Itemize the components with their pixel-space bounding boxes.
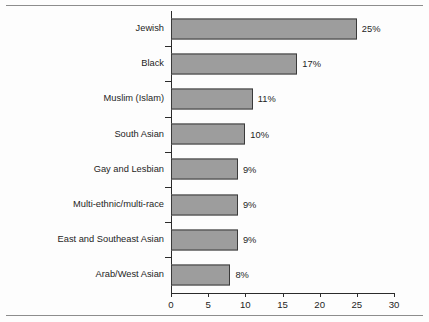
bar — [171, 53, 297, 74]
y-axis-tick-mark — [165, 222, 171, 223]
bar-row: Arab/West Asian8% — [0, 257, 429, 292]
x-axis-tick-mark — [208, 293, 209, 297]
bar-with-value: 9% — [171, 229, 256, 250]
bar-row: Jewish25% — [0, 11, 429, 46]
bar-value-label: 8% — [235, 270, 248, 280]
bar-value-label: 10% — [250, 129, 269, 139]
bar-with-value: 17% — [171, 53, 321, 74]
bar-value-label: 9% — [243, 164, 256, 174]
category-label: Muslim (Islam) — [0, 93, 164, 104]
bar-value-label: 9% — [243, 235, 256, 245]
bar — [171, 18, 357, 39]
bar — [171, 194, 238, 215]
bar-rows: Jewish25%Black17%Muslim (Islam)11%South … — [0, 11, 429, 293]
bar — [171, 88, 253, 109]
x-axis-tick-mark — [357, 293, 358, 297]
bar-value-label: 25% — [362, 24, 381, 34]
x-axis-tick-labels: 051015202530 — [0, 299, 429, 313]
bar-with-value: 9% — [171, 194, 256, 215]
x-axis-tick-label: 20 — [314, 299, 325, 310]
x-axis-tick-mark — [320, 293, 321, 297]
y-axis-tick-mark — [165, 117, 171, 118]
x-axis-tick-label: 25 — [351, 299, 362, 310]
bar-row: Gay and Lesbian9% — [0, 152, 429, 187]
bar — [171, 124, 245, 145]
bar-value-label: 11% — [258, 94, 276, 104]
bottom-divider-rule — [6, 315, 423, 316]
bar-with-value: 9% — [171, 159, 256, 180]
bar — [171, 264, 230, 285]
y-axis-tick-mark — [165, 81, 171, 82]
category-label: Black — [0, 58, 164, 69]
top-divider-rule — [6, 5, 423, 6]
x-axis-tick-label: 0 — [168, 299, 173, 310]
category-label: Multi-ethnic/multi-race — [0, 199, 164, 210]
bar-value-label: 9% — [243, 200, 256, 210]
bar-with-value: 10% — [171, 124, 269, 145]
x-axis-tick-label: 5 — [205, 299, 210, 310]
bar — [171, 159, 238, 180]
category-label: East and Southeast Asian — [0, 234, 164, 245]
x-axis-tick-marks — [0, 293, 429, 298]
bar — [171, 229, 238, 250]
bar-with-value: 8% — [171, 264, 249, 285]
x-axis-tick-mark — [394, 293, 395, 297]
x-axis-tick-label: 30 — [389, 299, 400, 310]
bar-row: Black17% — [0, 46, 429, 81]
bar-row: Muslim (Islam)11% — [0, 81, 429, 116]
x-axis-tick-label: 10 — [240, 299, 251, 310]
bar-with-value: 25% — [171, 18, 380, 39]
category-label: South Asian — [0, 129, 164, 140]
bar-chart-plot-area: Jewish25%Black17%Muslim (Islam)11%South … — [0, 8, 429, 293]
category-label: Gay and Lesbian — [0, 164, 164, 175]
y-axis-tick-mark — [165, 152, 171, 153]
bar-row: South Asian10% — [0, 117, 429, 152]
bar-row: Multi-ethnic/multi-race9% — [0, 187, 429, 222]
y-axis-tick-mark — [165, 257, 171, 258]
x-axis-tick-label: 15 — [277, 299, 288, 310]
category-label: Jewish — [0, 23, 164, 34]
category-label: Arab/West Asian — [0, 269, 164, 280]
y-axis-tick-mark — [165, 187, 171, 188]
x-axis-tick-mark — [171, 293, 172, 297]
x-axis-tick-mark — [245, 293, 246, 297]
x-axis-tick-mark — [283, 293, 284, 297]
bar-value-label: 17% — [302, 59, 321, 69]
y-axis-tick-mark — [165, 46, 171, 47]
bar-with-value: 11% — [171, 88, 276, 109]
bar-row: East and Southeast Asian9% — [0, 222, 429, 257]
chart-page: Jewish25%Black17%Muslim (Islam)11%South … — [0, 0, 429, 322]
